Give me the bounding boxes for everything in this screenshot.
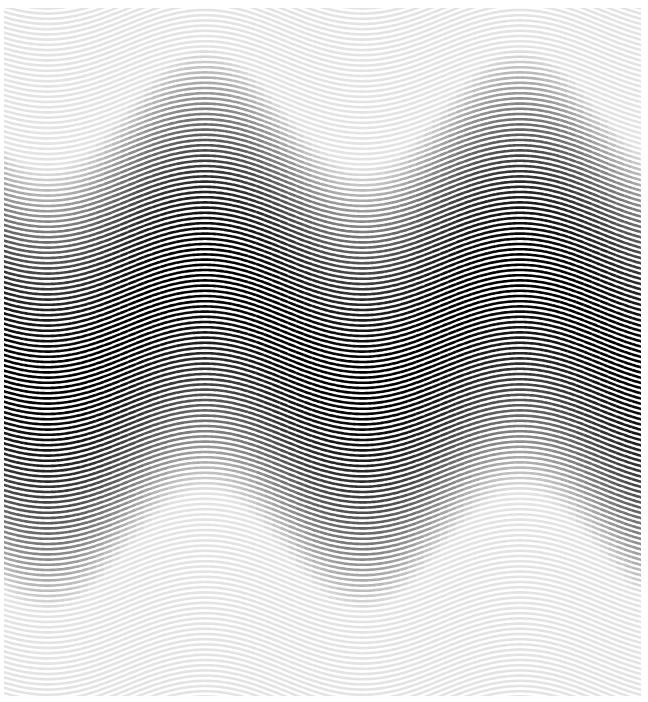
wave-line-segment: [384, 608, 392, 610]
wave-line-segment: [376, 646, 384, 647]
wave-line-segment: [536, 635, 544, 636]
wave-line-segment: [24, 422, 32, 423]
wave-line-segment: [64, 547, 72, 548]
wave-line-segment: [64, 490, 72, 491]
wave-line-segment: [16, 483, 24, 485]
wave-line-segment: [376, 657, 384, 658]
wave-line-segment: [536, 349, 544, 350]
wave-line-segment: [16, 519, 24, 521]
wave-line-segment: [64, 209, 72, 210]
wave-line-segment: [368, 533, 376, 534]
wave-line-segment: [32, 668, 40, 669]
wave-line-segment: [216, 10, 224, 11]
wave-line-segment: [504, 317, 512, 318]
wave-line-segment: [488, 28, 496, 30]
wave-line-segment: [376, 308, 384, 309]
wave-line-segment: [192, 62, 200, 63]
wave-line-segment: [336, 463, 344, 464]
wave-line-segment: [544, 444, 552, 446]
wave-line-segment: [384, 400, 392, 402]
wave-line-segment: [544, 397, 552, 399]
wave-line-segment: [64, 427, 72, 428]
wave-line-segment: [496, 323, 504, 324]
wave-line-segment: [24, 141, 32, 142]
wave-line-segment: [232, 637, 240, 639]
wave-line-segment: [184, 104, 192, 105]
wave-line-segment: [328, 503, 336, 505]
wave-line-segment: [344, 501, 352, 502]
wave-line-segment: [536, 562, 544, 563]
wave-line-segment: [224, 438, 232, 439]
wave-line-segment: [216, 234, 224, 235]
wave-line-segment: [216, 187, 224, 188]
wave-line-segment: [72, 488, 80, 490]
wave-line-segment: [216, 686, 224, 687]
wave-line-segment: [384, 411, 392, 413]
wave-line-segment: [328, 25, 336, 27]
wave-line-segment: [376, 527, 384, 528]
wave-line-segment: [176, 183, 184, 185]
wave-line-segment: [64, 224, 72, 225]
wave-line-segment: [72, 306, 80, 308]
wave-line-segment: [184, 177, 192, 178]
wave-line-segment: [184, 505, 192, 506]
wave-line-segment: [488, 376, 496, 378]
wave-line-segment: [496, 614, 504, 615]
wave-line-segment: [64, 131, 72, 132]
wave-line-segment: [384, 613, 392, 615]
wave-line-segment: [368, 252, 376, 253]
wave-line-segment: [328, 342, 336, 344]
wave-line-segment: [504, 655, 512, 656]
wave-line-segment: [72, 374, 80, 376]
wave-line-segment: [384, 338, 392, 340]
wave-line-segment: [16, 530, 24, 532]
wave-line-segment: [16, 57, 24, 59]
wave-line-segment: [488, 101, 496, 103]
wave-line-segment: [72, 660, 80, 662]
wave-line-segment: [72, 202, 80, 204]
wave-line-segment: [184, 609, 192, 610]
wave-line-segment: [496, 53, 504, 54]
wave-line-segment: [496, 484, 504, 485]
wave-line-segment: [488, 688, 496, 690]
wave-line-segment: [376, 563, 384, 564]
wave-line-segment: [16, 493, 24, 495]
wave-line-segment: [336, 99, 344, 100]
wave-line-segment: [24, 235, 32, 236]
wave-line-segment: [536, 359, 544, 360]
wave-line-segment: [56, 501, 64, 502]
wave-line-segment: [544, 439, 552, 441]
wave-line-segment: [176, 605, 184, 607]
wave-line-segment: [192, 665, 200, 666]
wave-line-segment: [32, 13, 40, 14]
wave-line-segment: [504, 281, 512, 282]
wave-line-segment: [192, 307, 200, 308]
wave-line-segment: [384, 208, 392, 210]
wave-line-segment: [184, 239, 192, 240]
wave-line-segment: [536, 198, 544, 199]
wave-line-segment: [328, 534, 336, 536]
wave-line-segment: [384, 494, 392, 496]
wave-line-segment: [216, 296, 224, 297]
wave-line-segment: [216, 463, 224, 464]
wave-line-segment: [16, 488, 24, 490]
wave-line-segment: [328, 565, 336, 567]
wave-line-segment: [56, 85, 64, 86]
wave-line-segment: [488, 589, 496, 591]
wave-line-segment: [24, 230, 32, 231]
wave-line-segment: [384, 333, 392, 335]
wave-line-segment: [72, 524, 80, 526]
wave-line-segment: [56, 169, 64, 170]
wave-line-segment: [344, 574, 352, 575]
wave-line-segment: [232, 80, 240, 82]
wave-line-segment: [368, 465, 376, 466]
wave-line-segment: [368, 413, 376, 414]
wave-line-segment: [16, 644, 24, 646]
wave-line-segment: [32, 611, 40, 612]
wave-line-segment: [176, 241, 184, 243]
wave-line-segment: [328, 493, 336, 495]
wave-line-segment: [16, 176, 24, 178]
wave-line-segment: [32, 512, 40, 513]
wave-line-segment: [536, 463, 544, 464]
wave-line-segment: [232, 580, 240, 582]
